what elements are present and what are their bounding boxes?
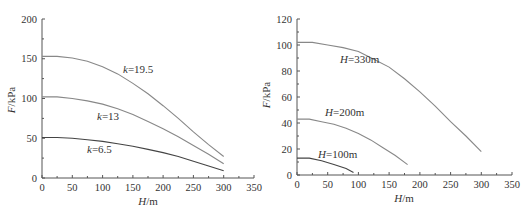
tick-label: 150	[381, 179, 397, 190]
curve-h-330m	[297, 42, 481, 151]
tick-label: 50	[27, 133, 38, 144]
tick-label: 50	[322, 179, 333, 190]
tick-label: 120	[276, 14, 292, 25]
tick-label: 100	[351, 179, 367, 190]
tick-label: 350	[504, 179, 520, 190]
tick-label: 0	[287, 170, 292, 181]
label-h-200m: H=200m	[324, 106, 365, 118]
tick-label: 200	[155, 182, 171, 193]
tick-label: 60	[282, 92, 293, 103]
tick-label: 100	[21, 93, 37, 104]
tick-label: 300	[216, 182, 232, 193]
curve-k-13	[42, 97, 224, 164]
tick-label: 20	[282, 144, 293, 155]
left-y-tick-labels: 0 50 100 150 200	[21, 14, 37, 184]
tick-label: 0	[39, 182, 44, 193]
tick-label: 0	[32, 173, 37, 184]
label-k-6-5: k=6.5	[87, 143, 112, 155]
tick-label: 200	[412, 179, 428, 190]
curve-h-100m	[297, 158, 354, 172]
tick-label: 350	[246, 182, 262, 193]
label-h-330m: H=330m	[339, 53, 380, 65]
tick-label: 150	[21, 53, 37, 64]
right-y-tick-labels: 0 20 40 60 80 100 120	[276, 14, 292, 181]
left-x-tick-labels: 0 50 100 150 200 250 300 350	[39, 182, 262, 193]
tick-label: 250	[443, 179, 459, 190]
figure: 0 50 100 150 200 0 50 100 150 200 250 30…	[0, 0, 529, 217]
tick-label: 40	[282, 118, 293, 129]
tick-label: 0	[294, 179, 299, 190]
chart-left: 0 50 100 150 200 0 50 100 150 200 250 30…	[5, 14, 262, 207]
tick-label: 150	[125, 182, 141, 193]
tick-label: 250	[186, 182, 202, 193]
tick-label: 100	[276, 40, 292, 51]
label-k-13: k=13	[97, 110, 120, 122]
chart-right: 0 20 40 60 80 100 120 0 50 100 150 200 2…	[260, 14, 520, 204]
right-x-tick-labels: 0 50 100 150 200 250 300 350	[294, 179, 520, 190]
right-x-axis-title: H/m	[393, 192, 414, 204]
left-y-axis-title: F/kPa	[5, 87, 17, 114]
tick-label: 200	[21, 14, 37, 25]
tick-label: 100	[95, 182, 111, 193]
curve-k-6-5	[42, 138, 224, 171]
right-y-axis-title: F/kPa	[260, 82, 272, 109]
left-x-axis-title: H/m	[137, 195, 158, 207]
tick-label: 300	[473, 179, 489, 190]
tick-label: 50	[67, 182, 78, 193]
label-k-19-5: k=19.5	[123, 63, 154, 75]
tick-label: 80	[282, 66, 293, 77]
label-h-100m: H=100m	[317, 148, 358, 160]
